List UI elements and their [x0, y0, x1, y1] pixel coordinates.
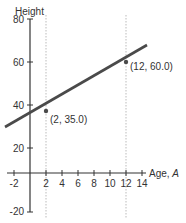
x-tick-label-4: 4: [59, 178, 65, 189]
x-tick-label-m2: -2: [10, 178, 19, 189]
point-label-2: (12, 60.0): [130, 61, 173, 72]
y-tick-label-40: 40: [13, 100, 25, 111]
x-tick-label-8: 8: [91, 178, 97, 189]
y-tick-label-60: 60: [13, 57, 25, 68]
y-tick-label-m20: -20: [10, 206, 25, 217]
y-tick-label-20: 20: [13, 143, 25, 154]
x-tick-label-14: 14: [136, 178, 148, 189]
data-point-1: [44, 109, 48, 113]
y-tick-label-80: 80: [13, 14, 25, 25]
x-tick-label-2: 2: [43, 178, 49, 189]
chart: Height 80 60 40 20 -20 -2 2 4 6 8 10 12 …: [0, 0, 186, 223]
x-tick-label-10: 10: [104, 178, 116, 189]
data-point-2: [124, 60, 128, 64]
x-tick-label-6: 6: [75, 178, 81, 189]
x-tick-label-12: 12: [120, 178, 132, 189]
point-label-1: (2, 35.0): [50, 114, 87, 125]
x-axis-label: Age, A: [149, 168, 179, 179]
